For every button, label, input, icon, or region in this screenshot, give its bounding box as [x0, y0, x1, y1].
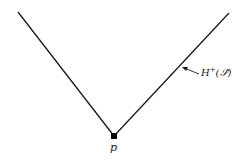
point-p-label: p	[110, 141, 117, 154]
horizon-label: H+(𝒮̂)	[200, 66, 232, 78]
horizon-label-arg: (𝒮̂)	[216, 67, 232, 78]
right-null-line-horizon	[114, 13, 229, 136]
horizon-label-base: H	[200, 67, 210, 78]
point-p-marker	[111, 133, 117, 139]
diagram-canvas: p H+(𝒮̂)	[0, 0, 246, 165]
left-null-line	[18, 12, 114, 136]
